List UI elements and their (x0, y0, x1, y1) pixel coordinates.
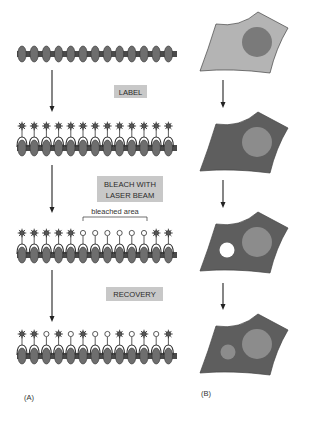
membrane-protein (115, 46, 123, 62)
membrane-protein (90, 331, 100, 364)
membrane-protein (17, 229, 27, 263)
membrane-protein (151, 229, 161, 263)
membrane-protein (42, 46, 50, 62)
membrane-protein (18, 46, 26, 62)
fluorescent-label-icon (91, 122, 100, 131)
membrane-protein (54, 46, 62, 62)
membrane-protein (163, 122, 173, 156)
fluorescent-label-icon (164, 122, 173, 131)
membrane-protein (29, 330, 39, 364)
fluorescent-label-icon (103, 122, 112, 131)
bleached-area-label: bleached area (91, 207, 139, 216)
bleached-cell (200, 212, 288, 273)
labeled-cell (200, 112, 288, 173)
membrane-protein (139, 330, 149, 364)
unlabeled-cell (200, 12, 288, 73)
membrane-protein (30, 46, 38, 62)
fluorescent-label-icon (54, 330, 63, 339)
membrane-protein (66, 229, 76, 263)
bleached-label-icon (93, 331, 98, 336)
fluorescent-label-icon (18, 122, 27, 131)
membrane-protein (66, 331, 76, 364)
membrane-row-recovery (17, 330, 177, 364)
membrane-protein (91, 46, 99, 62)
membrane-protein (163, 330, 173, 364)
membrane-protein (164, 46, 172, 62)
arrow-down-icon (50, 165, 55, 213)
membrane-protein (78, 330, 88, 364)
arrow-down-icon (221, 80, 226, 108)
membrane-protein (127, 230, 137, 263)
step-label-bleach-1: BLEACH WITH (104, 180, 156, 189)
membrane-protein (54, 122, 64, 156)
frap-diagram: LABEL BLEACH WITH LASER BEAM RECOVERY bl… (0, 0, 312, 421)
panel-a (17, 46, 177, 364)
bleached-label-icon (129, 331, 134, 336)
arrow-down-icon (221, 283, 226, 310)
panel-b (200, 12, 288, 375)
fluorescent-label-icon (164, 229, 173, 238)
fluorescent-label-icon (79, 122, 88, 131)
membrane-protein (66, 122, 76, 156)
membrane-protein (115, 230, 125, 263)
membrane-protein (139, 230, 149, 263)
bleached-label-icon (44, 331, 49, 336)
membrane-protein (140, 46, 148, 62)
membrane-protein (102, 122, 112, 156)
membrane-protein (54, 229, 64, 263)
membrane-protein (102, 331, 112, 364)
step-label-label: LABEL (119, 88, 143, 97)
membrane-protein (78, 122, 88, 156)
bleached-label-icon (80, 230, 85, 235)
membrane-protein (79, 46, 87, 62)
fluorescent-label-icon (164, 330, 173, 339)
bleached-label-icon (129, 230, 134, 235)
arrow-down-icon (221, 180, 226, 208)
recovered-cell (200, 314, 288, 375)
membrane-row-labeled (17, 122, 177, 156)
fluorescent-label-icon (140, 122, 149, 131)
step-label-bleach-2: LASER BEAM (106, 191, 155, 200)
membrane-protein (54, 330, 64, 364)
panel-b-label: (B) (201, 389, 212, 398)
membrane-row-unlabeled (17, 46, 177, 62)
membrane-protein (17, 330, 27, 364)
membrane-protein (90, 230, 100, 263)
fluorescent-label-icon (67, 122, 76, 131)
membrane-protein (17, 122, 27, 156)
membrane-protein (127, 122, 137, 156)
nucleus (242, 227, 272, 257)
membrane-protein (151, 122, 161, 156)
fluorescent-label-icon (18, 330, 27, 339)
fluorescent-label-icon (30, 229, 39, 238)
fluorescent-label-icon (79, 330, 88, 339)
membrane-protein (139, 122, 149, 156)
arrow-down-icon (50, 70, 55, 112)
bleached-label-icon (117, 230, 122, 235)
membrane-protein (41, 229, 51, 263)
arrow-down-icon (50, 270, 55, 322)
bleached-area-bracket (83, 217, 147, 221)
bleached-label-icon (141, 230, 146, 235)
fluorescent-label-icon (54, 229, 63, 238)
membrane-protein (103, 46, 111, 62)
membrane-protein (41, 122, 51, 156)
membrane-protein (163, 229, 173, 263)
membrane-protein (41, 331, 51, 364)
bleached-spot (220, 243, 235, 258)
fluorescent-label-icon (140, 330, 149, 339)
fluorescent-label-icon (18, 229, 27, 238)
panel-a-label: (A) (24, 393, 35, 402)
fluorescent-label-icon (42, 229, 51, 238)
membrane-protein (102, 230, 112, 263)
nucleus (242, 127, 272, 157)
membrane-protein (78, 230, 88, 263)
fluorescent-label-icon (67, 229, 76, 238)
fluorescent-label-icon (152, 229, 161, 238)
fluorescent-label-icon (30, 330, 39, 339)
membrane-protein (115, 122, 125, 156)
nucleus (242, 329, 272, 359)
membrane-row-bleached (17, 229, 177, 263)
membrane-protein (128, 46, 136, 62)
step-label-recovery: RECOVERY (113, 290, 155, 299)
